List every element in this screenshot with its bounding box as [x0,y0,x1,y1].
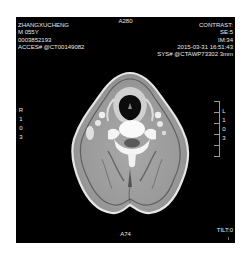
orientation-char: 0 [221,125,227,134]
orientation-char: 3 [221,134,227,143]
study-info: CONTRAST: SE:5 IM:34 2015-03-31 16:51:43… [157,22,233,58]
left-orientation-marker: R 1 0 3 [18,106,24,142]
tilt-label: TILT:0 [217,227,233,234]
series-number: SE:5 [157,29,233,36]
orientation-char: 0 [18,124,24,133]
contrast-label: CONTRAST: [157,22,233,29]
posterior-position-label: A74 [16,231,235,238]
patient-id: 0003852193 [18,37,84,44]
accession-number: ACCES# @CT00149082 [18,44,84,51]
image-number: IM:34 [157,37,233,44]
orientation-char: 1 [18,115,24,124]
marker-dot [228,237,229,240]
patient-info: ZHANGXUCHENG M 055Y 0003852193 ACCES# @C… [18,22,84,51]
ct-neck-slice [68,69,193,219]
orientation-char: R [18,106,24,115]
acquisition-datetime: 2015-03-31 16:51:43 [157,44,233,51]
scale-ruler [213,101,220,157]
patient-sex-age: M 055Y [18,29,84,36]
system-id: SYS# @CTAWP73302 3mm [157,51,233,58]
ct-viewport[interactable]: ZHANGXUCHENG M 055Y 0003852193 ACCES# @C… [16,17,235,243]
orientation-char: L [221,107,227,116]
orientation-char: 3 [18,133,24,142]
orientation-char: 1 [221,116,227,125]
